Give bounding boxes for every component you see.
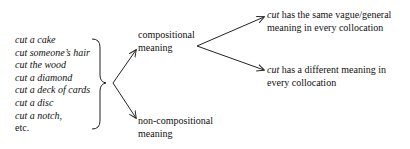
list-item: etc. <box>15 122 90 135</box>
list-item: cut the wood <box>15 59 90 72</box>
list-item: cut a cake <box>15 34 90 47</box>
non-compositional-meaning-label: non-compositional meaning <box>138 115 213 140</box>
same-meaning-label: cut has the same vague/general meaning i… <box>267 9 391 34</box>
label-line: meaning <box>138 42 195 55</box>
label-text: has the same vague/general <box>279 9 391 20</box>
label-line: meaning in every collocation <box>267 22 391 35</box>
cut-word: cut <box>267 64 279 75</box>
arrow-to-compositional <box>113 50 136 83</box>
arrow-to-same-meaning <box>197 17 264 46</box>
label-text: has a different meaning in <box>279 64 386 75</box>
label-line: every collocation <box>267 77 386 90</box>
label-line: non-compositional <box>138 115 213 128</box>
arrow-to-non-compositional <box>113 83 136 118</box>
list-item: cut someone’s hair <box>15 47 90 60</box>
different-meaning-label: cut has a different meaning in every col… <box>267 64 386 89</box>
list-item: cut a deck of cards <box>15 84 90 97</box>
list-item: cut a disc <box>15 97 90 110</box>
list-item: cut a notch, <box>15 110 90 123</box>
compositional-meaning-label: compositional meaning <box>138 29 195 54</box>
arrow-to-different-meaning <box>197 46 264 70</box>
cut-word: cut <box>267 9 279 20</box>
example-collocations-list: cut a cake cut someone’s hair cut the wo… <box>15 34 90 135</box>
label-line: meaning <box>138 128 213 141</box>
curly-brace <box>92 39 106 129</box>
label-line: cut has the same vague/general <box>267 9 391 22</box>
list-item: cut a diamond <box>15 72 90 85</box>
label-line: cut has a different meaning in <box>267 64 386 77</box>
label-line: compositional <box>138 29 195 42</box>
